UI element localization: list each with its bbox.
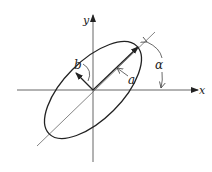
ellipse-diagram: y x a b α (0, 0, 212, 172)
right-angle-arc (83, 64, 90, 81)
semi-minor-arrow (76, 73, 93, 90)
alpha-arc-lower (161, 72, 162, 88)
angle-label: α (155, 58, 163, 72)
y-axis-label: y (82, 14, 90, 27)
diagram-canvas: y x a b α (0, 0, 212, 172)
semi-major-label: a (128, 73, 135, 87)
x-axis-label: x (199, 84, 206, 97)
major-axis-line (37, 32, 155, 146)
semi-minor-label: b (74, 58, 82, 72)
a-label-pointer (117, 68, 128, 76)
alpha-arc (147, 42, 162, 58)
